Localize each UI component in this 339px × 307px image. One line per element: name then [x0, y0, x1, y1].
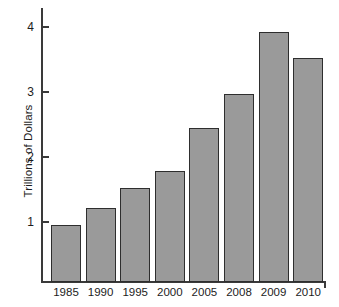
bar-1985	[51, 225, 81, 282]
y-axis-tick-label-4: 4	[16, 21, 34, 33]
x-axis-tick-label-2010: 2010	[291, 287, 325, 299]
y-axis-tick-4	[41, 26, 49, 27]
bar-2000	[155, 171, 185, 282]
x-axis-tick-label-2000: 2000	[153, 287, 187, 299]
bar-chart-figure: Trillions of Dollars 1234 19851990199520…	[0, 0, 339, 307]
x-axis-tick-label-2008: 2008	[222, 287, 256, 299]
y-axis-tick-label-3: 3	[16, 86, 34, 98]
x-axis-tick-label-2009: 2009	[257, 287, 291, 299]
y-axis-line	[41, 8, 43, 282]
x-axis-tick-label-1985: 1985	[49, 287, 83, 299]
x-axis-tick-label-2005: 2005	[187, 287, 221, 299]
y-axis-tick-3	[41, 91, 49, 92]
bar-2009	[259, 32, 289, 282]
bar-2010	[293, 58, 323, 282]
y-axis-tick-2	[41, 156, 49, 157]
y-axis-tick-label-1: 1	[16, 216, 34, 228]
x-axis-tick-label-1995: 1995	[118, 287, 152, 299]
bar-1995	[120, 188, 150, 282]
bar-1990	[86, 208, 116, 282]
y-axis-tick-1	[41, 221, 49, 222]
y-axis-tick-label-2: 2	[16, 151, 34, 163]
x-axis-tick-label-1990: 1990	[84, 287, 118, 299]
bar-2005	[189, 128, 219, 282]
bar-2008	[224, 94, 254, 282]
